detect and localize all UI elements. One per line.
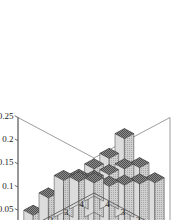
z-tick-mark — [15, 162, 18, 164]
z-tick-mark — [15, 116, 18, 118]
z-tick-mark — [15, 209, 18, 211]
y-tick-label: 2 — [136, 215, 141, 220]
x-tick-label: 4 — [79, 199, 84, 209]
z-tick-label: 0.15 — [0, 157, 14, 167]
x-tick-label: 3 — [64, 207, 69, 217]
z-tick-label: 0.25 — [0, 111, 14, 121]
y-tick-label: 3 — [121, 207, 126, 217]
plot-box-top-rim — [18, 118, 170, 159]
x-tick-label: 2 — [49, 215, 54, 220]
z-tick-mark — [15, 139, 18, 141]
z-tick-label: 0.05 — [0, 204, 14, 214]
bar3d-plot-canvas: 00.050.10.150.20.250123401234 — [0, 0, 188, 220]
z-tick-label: 0.2 — [2, 134, 13, 144]
bar-collection — [24, 129, 164, 220]
z-tick-mark — [15, 185, 18, 187]
bar3d-chart-figure: 00.050.10.150.20.250123401234 — [0, 0, 188, 220]
z-tick-label: 0.1 — [2, 181, 13, 191]
y-tick-label: 4 — [105, 199, 110, 209]
